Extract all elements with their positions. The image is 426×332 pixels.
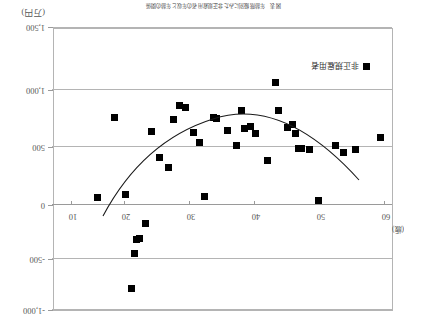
xtick-20 — [124, 201, 125, 205]
scatter-point — [292, 130, 299, 137]
chart-screenshot: 図表 年齢階級別にみた非正規雇用者の年収と年齢の関係 -1,000 -500 — [0, 0, 426, 332]
scatter-point — [238, 107, 245, 114]
yaxis-unit-label: (万円) — [21, 8, 45, 20]
scatter-point — [111, 114, 118, 121]
scatter-point — [377, 134, 384, 141]
legend-label: 非正規雇用者 — [311, 61, 359, 72]
xtick-60 — [384, 201, 385, 205]
xlabel-60: 60 — [371, 212, 401, 222]
scatter-point — [295, 145, 302, 152]
gridline-1000 — [52, 89, 392, 90]
gridline-minus1000 — [52, 309, 392, 310]
scatter-point — [233, 142, 240, 149]
ylabel-0: 0 — [41, 201, 45, 211]
ytick-minus500 — [48, 259, 53, 260]
ylabel-1500: 1,500 — [26, 23, 45, 33]
scatter-point — [315, 197, 322, 204]
ytick-0 — [48, 205, 53, 206]
scatter-point — [253, 130, 260, 137]
xaxis-unit-label: (歳) — [392, 225, 404, 236]
scatter-point — [131, 250, 138, 257]
scatter-point — [332, 142, 339, 149]
ytick-1500 — [48, 27, 53, 28]
gridline-500 — [52, 146, 392, 147]
scatter-point — [170, 116, 177, 123]
xtick-30 — [189, 201, 190, 205]
scatter-point — [176, 102, 183, 109]
ytick-minus1000 — [48, 310, 53, 311]
chart-title: 図表 年齢階級別にみた非正規雇用者の年収と年齢の関係 — [28, 3, 398, 10]
ytick-1000 — [48, 90, 53, 91]
scatter-point — [94, 194, 101, 201]
scatter-point — [134, 236, 141, 243]
xlabel-10: 10 — [58, 212, 88, 222]
axis-zero-line — [52, 204, 392, 205]
xlabel-20: 20 — [111, 212, 141, 222]
xlabel-30: 30 — [176, 212, 206, 222]
scatter-point — [128, 285, 135, 292]
scatter-point — [196, 139, 203, 146]
ylabel-1000: 1,000 — [26, 86, 45, 96]
scatter-point — [284, 124, 291, 131]
gridline-minus500 — [52, 258, 392, 259]
scatter-point — [165, 164, 172, 171]
legend-marker-icon — [363, 63, 370, 70]
scatter-point — [210, 114, 217, 121]
scatter-point — [122, 191, 129, 198]
scatter-point — [148, 128, 155, 135]
scatter-point — [272, 79, 279, 86]
xlabel-50: 50 — [306, 212, 336, 222]
ylabel-500: 500 — [32, 143, 45, 153]
xlabel-40: 40 — [241, 212, 271, 222]
scatter-point — [306, 146, 313, 153]
scatter-point — [142, 220, 149, 227]
gridline-1500 — [52, 27, 392, 28]
scatter-point — [340, 149, 347, 156]
ytick-500 — [48, 147, 53, 148]
scatter-point — [352, 146, 359, 153]
scatter-point — [202, 193, 209, 200]
ylabel-minus1000: -1,000 — [23, 306, 45, 316]
scatter-point — [156, 154, 163, 161]
scatter-point — [241, 125, 248, 132]
chart-figure: 図表 年齢階級別にみた非正規雇用者の年収と年齢の関係 -1,000 -500 — [0, 0, 426, 332]
ylabel-minus500: -500 — [29, 255, 45, 265]
scatter-point — [275, 107, 282, 114]
scatter-point — [224, 127, 231, 134]
xtick-10 — [71, 201, 72, 205]
chart-legend: 非正規雇用者 — [311, 61, 370, 72]
scatter-point — [190, 129, 197, 136]
xtick-40 — [254, 201, 255, 205]
scatter-point — [264, 157, 271, 164]
